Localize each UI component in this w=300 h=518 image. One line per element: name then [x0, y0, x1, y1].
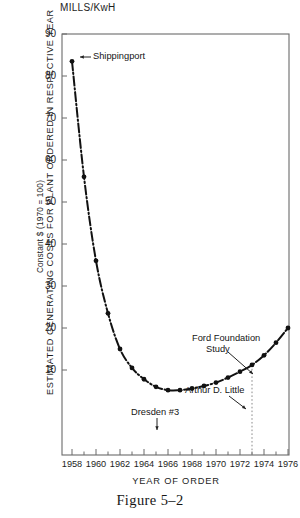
data-series-line [72, 61, 288, 390]
annotation-arrowheads [80, 55, 253, 430]
y-axis-ticks [62, 34, 67, 370]
plot-frame [62, 34, 289, 455]
x-axis-ticks [72, 449, 288, 455]
data-point-markers [70, 59, 291, 393]
figure-container: MILLS/KwH ESTIMATED GENERATING COSTS FOR… [0, 0, 300, 518]
chart-canvas [0, 0, 300, 518]
annotation-leader-lines [80, 57, 253, 430]
